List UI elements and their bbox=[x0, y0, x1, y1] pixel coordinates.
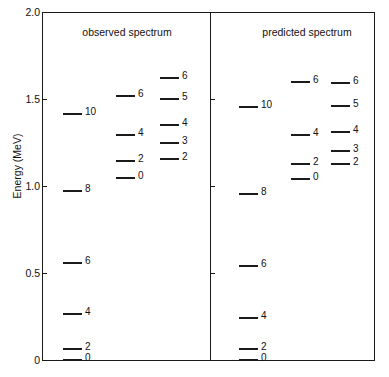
energy-level-line bbox=[239, 193, 258, 195]
energy-level-label: 2 bbox=[182, 152, 188, 162]
energy-level-diagram: Energy (MeV) 2.01.51.00.50 observed spec… bbox=[0, 0, 389, 377]
energy-level-label: 4 bbox=[182, 118, 188, 128]
panel-title-predicted: predicted spectrum bbox=[242, 26, 372, 38]
energy-level-label: 4 bbox=[138, 128, 144, 138]
energy-level-label: 0 bbox=[138, 171, 144, 181]
energy-level-line bbox=[239, 348, 258, 350]
energy-level-label: 4 bbox=[313, 128, 319, 138]
y-tick-label: 1.0 bbox=[6, 181, 40, 192]
energy-level-line bbox=[160, 124, 179, 126]
energy-level-label: 4 bbox=[85, 307, 91, 317]
energy-level-line bbox=[239, 317, 258, 319]
energy-level-line bbox=[63, 262, 82, 264]
energy-level-label: 0 bbox=[85, 353, 91, 363]
energy-level-line bbox=[116, 134, 135, 136]
panel-title-observed: observed spectrum bbox=[62, 26, 192, 38]
energy-level-line bbox=[331, 131, 350, 133]
energy-level-line bbox=[239, 265, 258, 267]
energy-level-label: 6 bbox=[313, 75, 319, 85]
energy-level-line bbox=[160, 158, 179, 160]
energy-level-label: 2 bbox=[138, 154, 144, 164]
y-axis-label: Energy (MeV) bbox=[11, 111, 23, 221]
energy-level-label: 3 bbox=[353, 144, 359, 154]
energy-level-label: 8 bbox=[85, 184, 91, 194]
energy-level-line bbox=[331, 163, 350, 165]
y-tick-label: 0 bbox=[6, 355, 40, 366]
energy-level-label: 6 bbox=[85, 256, 91, 266]
energy-level-label: 0 bbox=[313, 172, 319, 182]
energy-level-line bbox=[239, 359, 258, 361]
energy-level-line bbox=[160, 77, 179, 79]
plot-frame bbox=[42, 12, 375, 361]
y-tick-label: 2.0 bbox=[6, 7, 40, 18]
energy-level-line bbox=[331, 150, 350, 152]
energy-level-label: 10 bbox=[85, 107, 96, 117]
energy-level-label: 2 bbox=[313, 157, 319, 167]
energy-level-label: 0 bbox=[261, 353, 267, 363]
energy-level-line bbox=[331, 82, 350, 84]
energy-level-line bbox=[160, 142, 179, 144]
energy-level-line bbox=[116, 177, 135, 179]
y-tick-label: 1.5 bbox=[6, 94, 40, 105]
energy-level-line bbox=[116, 95, 135, 97]
energy-level-line bbox=[63, 190, 82, 192]
energy-level-label: 2 bbox=[261, 342, 267, 352]
energy-level-label: 6 bbox=[138, 89, 144, 99]
energy-level-label: 5 bbox=[353, 99, 359, 109]
energy-level-label: 5 bbox=[182, 92, 188, 102]
energy-level-line bbox=[160, 98, 179, 100]
energy-level-label: 4 bbox=[261, 311, 267, 321]
energy-level-label: 6 bbox=[182, 71, 188, 81]
energy-level-line bbox=[239, 106, 258, 108]
energy-level-label: 2 bbox=[353, 157, 359, 167]
energy-level-line bbox=[291, 81, 310, 83]
energy-level-label: 6 bbox=[353, 76, 359, 86]
energy-level-line bbox=[291, 163, 310, 165]
energy-level-line bbox=[116, 160, 135, 162]
energy-level-line bbox=[63, 113, 82, 115]
energy-level-label: 6 bbox=[261, 259, 267, 269]
energy-level-label: 10 bbox=[261, 100, 272, 110]
energy-level-line bbox=[63, 348, 82, 350]
energy-level-line bbox=[331, 105, 350, 107]
energy-level-line bbox=[291, 134, 310, 136]
y-tick-label: 0.5 bbox=[6, 268, 40, 279]
energy-level-label: 2 bbox=[85, 342, 91, 352]
energy-level-line bbox=[63, 359, 82, 361]
energy-level-label: 3 bbox=[182, 136, 188, 146]
panel-divider bbox=[210, 12, 211, 361]
energy-level-label: 4 bbox=[353, 125, 359, 135]
energy-level-line bbox=[63, 313, 82, 315]
energy-level-line bbox=[291, 178, 310, 180]
energy-level-label: 8 bbox=[261, 187, 267, 197]
